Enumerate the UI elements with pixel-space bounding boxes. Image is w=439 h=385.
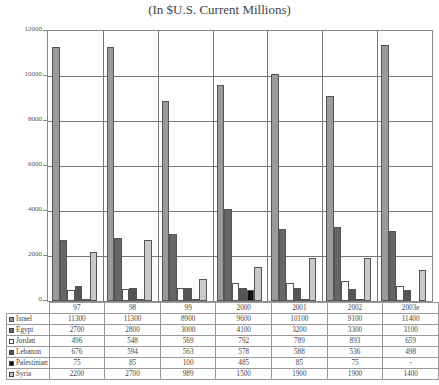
table-cell: 588 — [272, 347, 328, 358]
bar-syria-2001 — [309, 258, 317, 301]
table-cell: 569 — [160, 336, 216, 347]
bar-israel-2000 — [217, 85, 225, 301]
table-cell: 75 — [49, 358, 105, 369]
bar-palestinian-97 — [82, 299, 90, 301]
category-label: 99 — [160, 303, 216, 314]
table-cell: 75 — [327, 358, 383, 369]
gridline — [48, 211, 432, 212]
bar-israel-2001 — [271, 74, 279, 301]
table-cell: 496 — [49, 336, 105, 347]
category-divider — [322, 31, 323, 301]
table-cell: 1400 — [383, 369, 439, 380]
table-cell: 3000 — [160, 325, 216, 336]
table-cell: 2800 — [105, 325, 161, 336]
table-cell: 1900 — [327, 369, 383, 380]
table-row: Israel11300113008900960010100910011400 — [7, 314, 439, 325]
table-cell: 3300 — [327, 325, 383, 336]
gridline — [48, 166, 432, 167]
bar-jordan-2003e — [396, 286, 404, 301]
table-cell: 548 — [105, 336, 161, 347]
gridline — [48, 76, 432, 77]
bar-jordan-99 — [177, 288, 185, 301]
table-cell: 498 — [383, 347, 439, 358]
table-cell: 3200 — [272, 325, 328, 336]
bar-lebanon-2000 — [239, 288, 247, 301]
chart-title: (In $U.S. Current Millions) — [0, 2, 439, 18]
table-cell: 9100 — [327, 314, 383, 325]
bar-palestinian-2001 — [301, 299, 309, 301]
legend-entry: Egypt — [7, 325, 50, 336]
table-cell: 594 — [105, 347, 161, 358]
table-cell: 11300 — [105, 314, 161, 325]
table-row: Egypt2700280030004100320033003100 — [7, 325, 439, 336]
bar-israel-98 — [107, 47, 115, 301]
plot-area — [47, 30, 433, 302]
table-cell: 536 — [327, 347, 383, 358]
y-tick-label: 8000 — [0, 115, 42, 123]
bar-palestinian-99 — [192, 299, 200, 301]
legend-label: Egypt — [16, 326, 33, 334]
category-label: 97 — [49, 303, 105, 314]
bar-jordan-97 — [67, 290, 75, 301]
category-divider — [377, 31, 378, 301]
category-divider — [158, 31, 159, 301]
table-cell: 1900 — [272, 369, 328, 380]
y-tick-label: 6000 — [0, 160, 42, 168]
category-divider — [267, 31, 268, 301]
legend-label: Palestinian — [16, 359, 48, 367]
table-cell: 893 — [327, 336, 383, 347]
bar-israel-2003e — [381, 45, 389, 302]
legend-label: Lebanon — [16, 348, 41, 356]
bar-lebanon-2002 — [349, 289, 357, 301]
bar-lebanon-97 — [75, 286, 83, 301]
bar-palestinian-2000 — [247, 290, 255, 301]
bar-egypt-99 — [169, 234, 177, 302]
category-label: 2002 — [327, 303, 383, 314]
table-cell: 1500 — [216, 369, 272, 380]
bar-israel-99 — [162, 101, 170, 301]
table-cell: 989 — [160, 369, 216, 380]
legend-swatch-icon — [9, 328, 14, 333]
table-cell: 85 — [272, 358, 328, 369]
table-cell: 2700 — [105, 369, 161, 380]
table-cell: 563 — [160, 347, 216, 358]
bar-egypt-2003e — [389, 231, 397, 301]
table-row: Lebanon676594563578588536498 — [7, 347, 439, 358]
table-cell: 676 — [49, 347, 105, 358]
legend-entry: Palestinian — [7, 358, 50, 369]
table-row: Syria220027009891500190019001400 — [7, 369, 439, 380]
bar-jordan-2000 — [232, 283, 240, 301]
legend-entry: Lebanon — [7, 347, 50, 358]
table-cell: 9600 — [216, 314, 272, 325]
bar-syria-97 — [90, 252, 98, 302]
bar-syria-2002 — [364, 258, 372, 301]
legend-entry: Israel — [7, 314, 50, 325]
legend-label: Jordan — [16, 337, 35, 345]
table-cell: 11400 — [383, 314, 439, 325]
gridline — [48, 121, 432, 122]
data-table: 9798992000200120022003eIsrael11300113008… — [6, 302, 439, 380]
legend-swatch-icon — [9, 317, 14, 322]
legend-label: Israel — [16, 315, 32, 323]
category-divider — [103, 31, 104, 301]
table-cell: 100 — [160, 358, 216, 369]
table-cell: 789 — [272, 336, 328, 347]
table-header-row: 9798992000200120022003e — [7, 303, 439, 314]
category-label: 98 — [105, 303, 161, 314]
category-label: 2001 — [272, 303, 328, 314]
bar-jordan-2001 — [286, 283, 294, 301]
legend-swatch-icon — [9, 339, 14, 344]
bar-egypt-2001 — [279, 229, 287, 301]
table-cell: 792 — [216, 336, 272, 347]
legend-swatch-icon — [9, 350, 14, 355]
category-divider — [213, 31, 214, 301]
bar-jordan-2002 — [341, 281, 349, 301]
table-cell: 485 — [216, 358, 272, 369]
table-cell: 8900 — [160, 314, 216, 325]
table-cell: - — [383, 358, 439, 369]
legend-entry: Jordan — [7, 336, 50, 347]
legend-entry: Syria — [7, 369, 50, 380]
table-cell: 659 — [383, 336, 439, 347]
bar-lebanon-98 — [129, 288, 137, 301]
y-tick-label: 2000 — [0, 250, 42, 258]
